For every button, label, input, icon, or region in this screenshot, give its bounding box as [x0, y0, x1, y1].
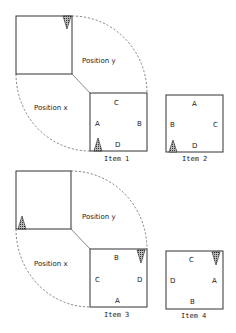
triangle-marker-icon: [169, 140, 177, 152]
triangle-marker-icon: [63, 16, 71, 29]
item-4-label-right: A: [212, 277, 217, 285]
item-3-label-left: C: [95, 276, 100, 284]
triangle-marker-icon: [18, 216, 26, 229]
position-x-arc: [16, 229, 90, 307]
item-1-label-top: C: [114, 99, 119, 107]
item-3-label-bottom: A: [115, 297, 120, 305]
connector-line: [71, 229, 90, 249]
item-4-label-bottom: B: [190, 298, 195, 306]
position-x-arc: [16, 74, 90, 151]
item-3: B C D A Item 3: [90, 249, 147, 319]
connector-line: [72, 74, 90, 93]
item-4-label-left: D: [170, 277, 175, 285]
triangle-marker-icon: [212, 252, 220, 265]
item-1: C A B D Item 1: [90, 93, 147, 163]
item-2: A B C D Item 2: [166, 95, 223, 163]
source-square: [16, 171, 71, 229]
item-3-label-right: D: [137, 276, 142, 284]
item-2-label-right: C: [213, 121, 218, 129]
position-y-label: Position y: [82, 213, 116, 221]
item-2-label-top: A: [192, 100, 197, 108]
item-2-caption: Item 2: [182, 155, 207, 163]
item-2-label-left: B: [170, 121, 175, 129]
item-4: C D A B Item 4: [166, 251, 223, 320]
position-y-arc: [71, 171, 147, 249]
item-4-label-top: C: [189, 256, 194, 264]
rotation-diagram: Position y Position x C A B D Item 1 A B…: [0, 0, 236, 333]
triangle-marker-icon: [94, 138, 102, 151]
item-1-label-right: B: [137, 120, 142, 128]
item-3-caption: Item 3: [104, 311, 129, 319]
item-1-caption: Item 1: [104, 155, 129, 163]
item-2-label-bottom: D: [192, 142, 197, 150]
source-square: [16, 16, 72, 74]
position-y-arc: [72, 16, 147, 93]
item-1-label-bottom: D: [115, 141, 120, 149]
triangle-marker-icon: [137, 250, 145, 263]
position-x-label: Position x: [34, 104, 68, 112]
item-3-label-top: B: [114, 254, 119, 262]
item-1-label-left: A: [95, 120, 100, 128]
item-4-caption: Item 4: [181, 312, 206, 320]
position-x-label: Position x: [34, 260, 68, 268]
position-y-label: Position y: [82, 57, 116, 65]
top-panel: Position y Position x C A B D Item 1 A B…: [16, 16, 223, 163]
bottom-panel: Position y Position x B C D A Item 3 C D…: [16, 171, 223, 320]
